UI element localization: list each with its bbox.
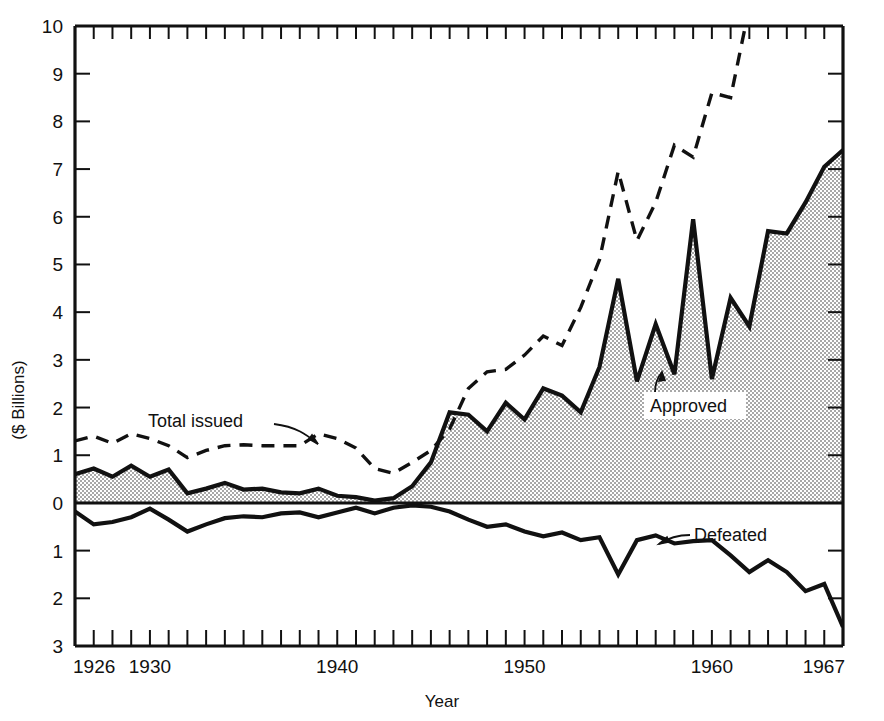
x-tick-label: 1967 [803,656,845,677]
annotation-approved-label: Approved [650,396,727,416]
y-tick-label: 8 [52,111,63,132]
y-tick-label: 2 [52,398,63,419]
y-axis-title: ($ Billions) [9,360,28,439]
y-tick-label: 10 [42,16,63,37]
y-tick-label: 1 [52,541,63,562]
x-tick-label: 1926 [73,656,115,677]
y-tick-label: 0 [52,493,63,514]
chart-figure: 109876543210123 192619301940195019601967… [0,0,884,721]
x-tick-label: 1940 [316,656,358,677]
y-tick-label: 3 [52,636,63,657]
x-axis-title: Year [425,692,460,711]
y-tick-label: 9 [52,64,63,85]
y-tick-label: 1 [52,445,63,466]
y-tick-label: 4 [52,302,63,323]
chart-svg: 109876543210123 192619301940195019601967… [0,0,884,721]
annotation-total-issued-label: Total issued [148,411,243,431]
x-tick-label: 1960 [691,656,733,677]
x-tick-label: 1930 [129,656,171,677]
y-tick-label: 5 [52,254,63,275]
y-tick-label: 3 [52,350,63,371]
y-tick-label: 2 [52,588,63,609]
y-tick-label: 6 [52,207,63,228]
x-tick-label: 1950 [503,656,545,677]
annotation-defeated-label: Defeated [694,525,767,545]
y-tick-label: 7 [52,159,63,180]
